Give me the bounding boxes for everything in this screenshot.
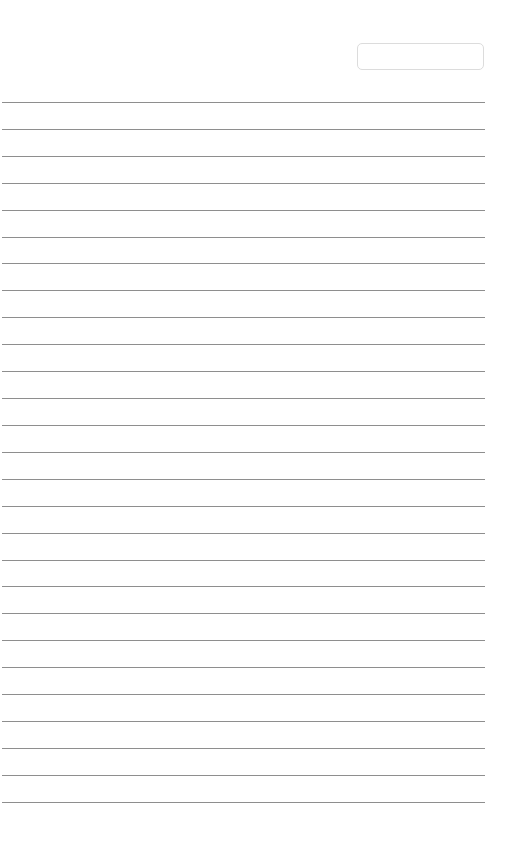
- rule-line: [2, 237, 485, 238]
- rule-line: [2, 506, 485, 507]
- rule-line: [2, 317, 485, 318]
- rule-line: [2, 263, 485, 264]
- rule-line: [2, 802, 485, 803]
- page-header: [0, 0, 506, 102]
- rule-line: [2, 721, 485, 722]
- rule-line: [2, 102, 485, 103]
- rule-line: [2, 425, 485, 426]
- rule-line: [2, 129, 485, 130]
- rule-line: [2, 694, 485, 695]
- ruled-page: [0, 0, 506, 850]
- rule-line: [2, 560, 485, 561]
- header-text-input[interactable]: [357, 43, 484, 70]
- rule-line: [2, 371, 485, 372]
- rule-line: [2, 156, 485, 157]
- rule-line: [2, 210, 485, 211]
- rule-line: [2, 586, 485, 587]
- rule-line: [2, 398, 485, 399]
- rule-line: [2, 479, 485, 480]
- rule-line: [2, 344, 485, 345]
- rule-line: [2, 775, 485, 776]
- rule-line: [2, 533, 485, 534]
- rule-line: [2, 748, 485, 749]
- rule-line: [2, 290, 485, 291]
- rule-line: [2, 183, 485, 184]
- ruled-lines-container: [0, 0, 506, 850]
- rule-line: [2, 667, 485, 668]
- rule-line: [2, 640, 485, 641]
- rule-line: [2, 613, 485, 614]
- rule-line: [2, 452, 485, 453]
